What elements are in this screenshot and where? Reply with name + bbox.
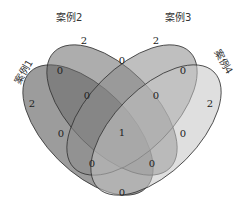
region-1-2-4: 0 bbox=[89, 158, 95, 169]
region-1-2: 0 bbox=[57, 65, 63, 76]
venn-diagram: 案例1 案例2 案例3 案例4 2 2 2 2 0 0 0 0 0 0 0 1 … bbox=[0, 0, 244, 219]
region-only-2: 2 bbox=[81, 35, 87, 46]
region-2-3-4: 0 bbox=[153, 90, 159, 101]
set-4-label: 案例4 bbox=[212, 47, 236, 76]
region-only-4: 2 bbox=[207, 98, 213, 109]
region-1-3-4: 0 bbox=[149, 158, 155, 169]
region-2-3: 0 bbox=[119, 55, 125, 66]
region-all: 1 bbox=[119, 127, 125, 138]
region-2-4: 0 bbox=[180, 128, 186, 139]
region-1-2-3: 0 bbox=[84, 90, 90, 101]
region-only-3: 2 bbox=[153, 35, 159, 46]
region-1-3: 0 bbox=[58, 128, 64, 139]
set-2-label: 案例2 bbox=[56, 11, 82, 23]
region-3-4: 0 bbox=[180, 65, 186, 76]
set-3-label: 案例3 bbox=[165, 11, 191, 23]
region-only-1: 2 bbox=[29, 98, 35, 109]
region-1-4: 0 bbox=[119, 187, 125, 198]
